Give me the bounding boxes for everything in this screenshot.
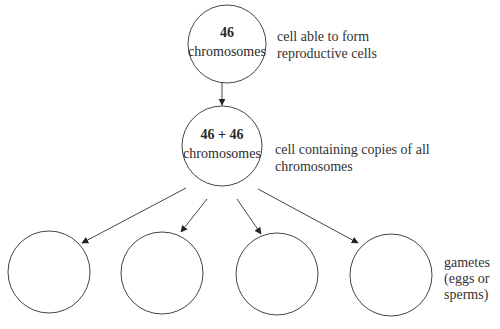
parent-cell-description: cell able to form reproductive cells	[277, 28, 377, 62]
gametes-label: gametes (eggs or sperms)	[444, 255, 490, 303]
replicated-cell-description-line-2: chromosomes	[275, 158, 430, 175]
parent-cell-unit: chromosomes	[187, 42, 267, 61]
replicated-cell-count: 46 + 46	[180, 125, 264, 144]
gamete-circle-2	[121, 232, 203, 314]
gametes-label-line-1: gametes	[444, 255, 490, 271]
replicated-cell-description-line-1: cell containing copies of all	[275, 141, 430, 158]
arrow-to-gamete-3	[237, 199, 261, 234]
parent-cell-description-line-1: cell able to form	[277, 28, 377, 45]
arrow-to-gamete-1	[82, 188, 186, 243]
gamete-circle-4	[350, 234, 432, 316]
replicated-cell-text: 46 + 46 chromosomes	[180, 125, 264, 163]
gamete-circle-3	[236, 233, 318, 315]
gamete-circle-1	[8, 231, 90, 313]
replicated-cell-description: cell containing copies of all chromosome…	[275, 141, 430, 175]
gametes-label-line-3: sperms)	[444, 287, 490, 303]
parent-cell-description-line-2: reproductive cells	[277, 45, 377, 62]
parent-cell-count: 46	[187, 23, 267, 42]
replicated-cell-unit: chromosomes	[180, 144, 264, 163]
parent-cell-text: 46 chromosomes	[187, 23, 267, 61]
gametes-label-line-2: (eggs or	[444, 271, 490, 287]
arrow-to-gamete-2	[181, 199, 207, 232]
arrow-to-gamete-4	[258, 189, 358, 243]
